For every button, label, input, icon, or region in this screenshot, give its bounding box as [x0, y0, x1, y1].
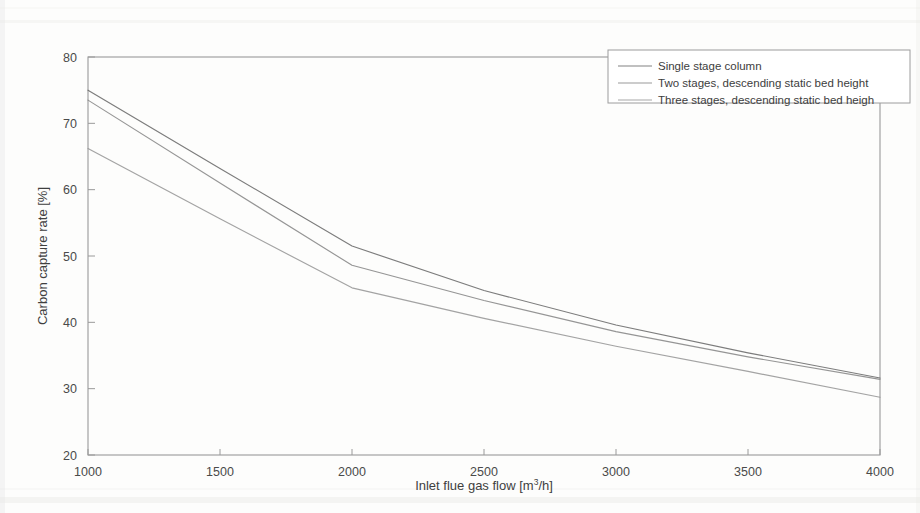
legend-label-1: Single stage column	[658, 60, 762, 72]
y-tick-label: 50	[63, 250, 77, 264]
x-axis-ticks	[88, 449, 880, 455]
figure-canvas: 1000150020002500300035004000 20304050607…	[0, 0, 920, 513]
legend-label-2: Two stages, descending static bed height	[658, 77, 869, 89]
x-axis-title-tail: /h]	[538, 478, 552, 493]
x-axis-tick-labels: 1000150020002500300035004000	[74, 465, 894, 479]
y-axis-title: Carbon capture rate [%]	[35, 187, 50, 325]
x-axis-title-base: Inlet flue gas flow [m	[415, 478, 534, 493]
x-tick-label: 3500	[734, 465, 762, 479]
x-tick-label: 3000	[602, 465, 630, 479]
y-tick-label: 80	[63, 51, 77, 65]
series-line-2	[88, 100, 880, 379]
x-tick-label: 1000	[74, 465, 102, 479]
series-line-1	[88, 90, 880, 378]
x-tick-label: 4000	[866, 465, 894, 479]
series-line-3	[88, 149, 880, 398]
y-tick-label: 60	[63, 183, 77, 197]
y-axis-ticks	[88, 57, 95, 455]
y-tick-label: 20	[63, 449, 77, 463]
legend[interactable]: Single stage columnTwo stages, descendin…	[608, 50, 910, 106]
plot-frame	[88, 57, 880, 455]
x-tick-label: 1500	[206, 465, 234, 479]
legend-label-3: Three stages, descending static bed heig…	[658, 94, 874, 106]
y-tick-label: 70	[63, 117, 77, 131]
y-axis-tick-labels: 20304050607080	[63, 51, 77, 463]
y-tick-label: 30	[63, 382, 77, 396]
data-series-group	[88, 90, 880, 397]
x-tick-label: 2000	[338, 465, 366, 479]
line-chart: 1000150020002500300035004000 20304050607…	[0, 0, 920, 513]
x-axis-title: Inlet flue gas flow [m3/h]	[415, 477, 553, 493]
x-tick-label: 2500	[470, 465, 498, 479]
y-tick-label: 40	[63, 316, 77, 330]
